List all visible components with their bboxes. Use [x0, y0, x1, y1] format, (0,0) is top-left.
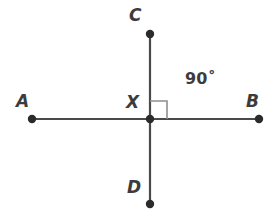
point-label-d: D	[127, 179, 141, 196]
point-label-b: B	[246, 93, 259, 110]
point-c-dot	[146, 30, 154, 38]
point-label-c: C	[129, 7, 141, 24]
geometry-figure: A B C D X 90˚	[0, 0, 280, 220]
point-label-a: A	[16, 93, 29, 110]
point-label-x: X	[126, 94, 139, 111]
point-b-dot	[255, 115, 263, 123]
angle-measure-label: 90˚	[185, 71, 216, 87]
point-d-dot	[146, 200, 154, 208]
point-a-dot	[28, 115, 36, 123]
point-x-dot	[146, 115, 154, 123]
